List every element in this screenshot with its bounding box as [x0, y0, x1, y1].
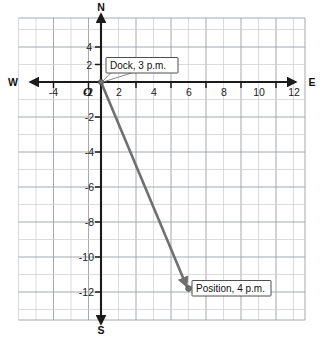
compass-label-east: E [308, 76, 315, 88]
callout-position[interactable]: Position, 4 p.m. [189, 281, 271, 297]
y-tick-label: 2 [86, 59, 92, 71]
compass-label-south: S [97, 324, 104, 336]
y-tick-label: -4 [85, 146, 94, 158]
origin-label: O [83, 85, 92, 99]
travel-vector [98, 79, 191, 291]
compass-label-north: N [97, 1, 105, 13]
x-tick-label: 8 [221, 86, 227, 98]
x-tick-label: 6 [186, 86, 192, 98]
compass-label-west: W [8, 76, 18, 88]
y-tick-label: -10 [79, 251, 94, 263]
callout-dock-label: Dock, 3 p.m. [110, 60, 166, 71]
y-tick-label: -8 [85, 216, 94, 228]
coordinate-plane-figure: -4 -2 2 4 6 8 10 12 4 2 -2 -4 -6 -8 -10 … [0, 0, 323, 337]
coordinate-plane-svg: -4 -2 2 4 6 8 10 12 4 2 -2 -4 -6 -8 -10 … [0, 0, 323, 337]
x-tick-label: 4 [151, 86, 157, 98]
y-tick-label: -12 [79, 286, 94, 298]
x-tick-label: -4 [49, 86, 58, 98]
y-tick-label: -6 [85, 181, 94, 193]
x-tick-label: 12 [288, 86, 300, 98]
x-tick-label: 10 [253, 86, 265, 98]
callout-position-label: Position, 4 p.m. [196, 283, 265, 294]
vector-path [101, 82, 187, 286]
y-tick-label: 4 [86, 41, 92, 53]
callout-dock[interactable]: Dock, 3 p.m. [102, 58, 179, 83]
y-tick-label: -2 [85, 111, 94, 123]
x-tick-label: 2 [116, 86, 122, 98]
